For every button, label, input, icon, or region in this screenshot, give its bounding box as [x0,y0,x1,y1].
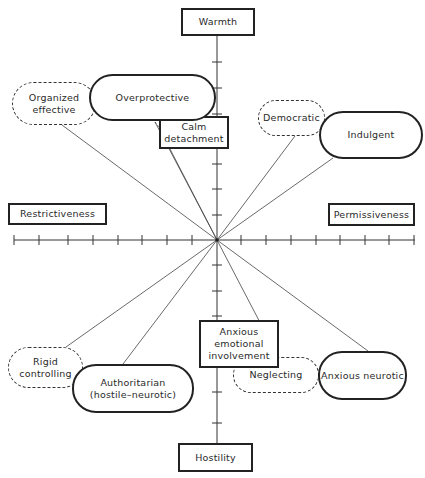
anxious-emotional-involvement-box: Anxious emotional involvement [199,320,279,368]
democratic-label: Democratic [263,112,320,124]
authoritarian-node: Authoritarian (hostile–neurotic) [72,364,194,413]
indulgent-node: Indulgent [319,111,423,159]
indulgent-label: Indulgent [348,129,395,141]
warmth-label: Warmth [199,16,238,28]
anxious-neurotic-node: Anxious neurotic [318,351,407,400]
anxious-emotional-involvement-label: Anxious emotional involvement [208,326,269,362]
anxious-neurotic-label: Anxious neurotic [321,370,404,382]
calm-detachment-label: Calm detachment [164,121,224,145]
permissiveness-box: Permissiveness [328,203,415,226]
overprotective-node: Overprotective [89,74,216,121]
diagram-lines [0,0,425,478]
hostility-label: Hostility [195,452,236,464]
restrictiveness-label: Restrictiveness [20,208,95,220]
authoritarian-label: Authoritarian (hostile–neurotic) [90,377,176,401]
organized-effective-label: Organized effective [29,92,79,116]
permissiveness-label: Permissiveness [334,209,409,221]
origin-point [215,238,219,242]
rigid-controlling-label: Rigid controlling [19,356,71,380]
organized-effective-node: Organized effective [12,82,96,125]
overprotective-label: Overprotective [116,92,190,104]
restrictiveness-box: Restrictiveness [8,203,107,225]
democratic-node: Democratic [258,100,325,136]
hostility-box: Hostility [178,443,253,472]
warmth-box: Warmth [181,8,255,36]
neglecting-label: Neglecting [249,369,302,381]
